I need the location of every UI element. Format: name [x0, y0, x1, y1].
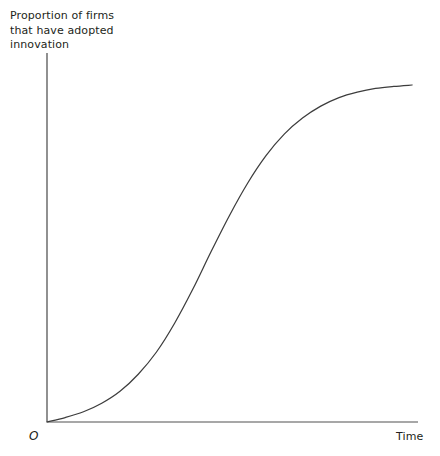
adoption-s-curve	[47, 85, 412, 422]
chart-canvas	[0, 0, 440, 456]
chart-figure: Proportion of firms that have adopted in…	[0, 0, 440, 456]
